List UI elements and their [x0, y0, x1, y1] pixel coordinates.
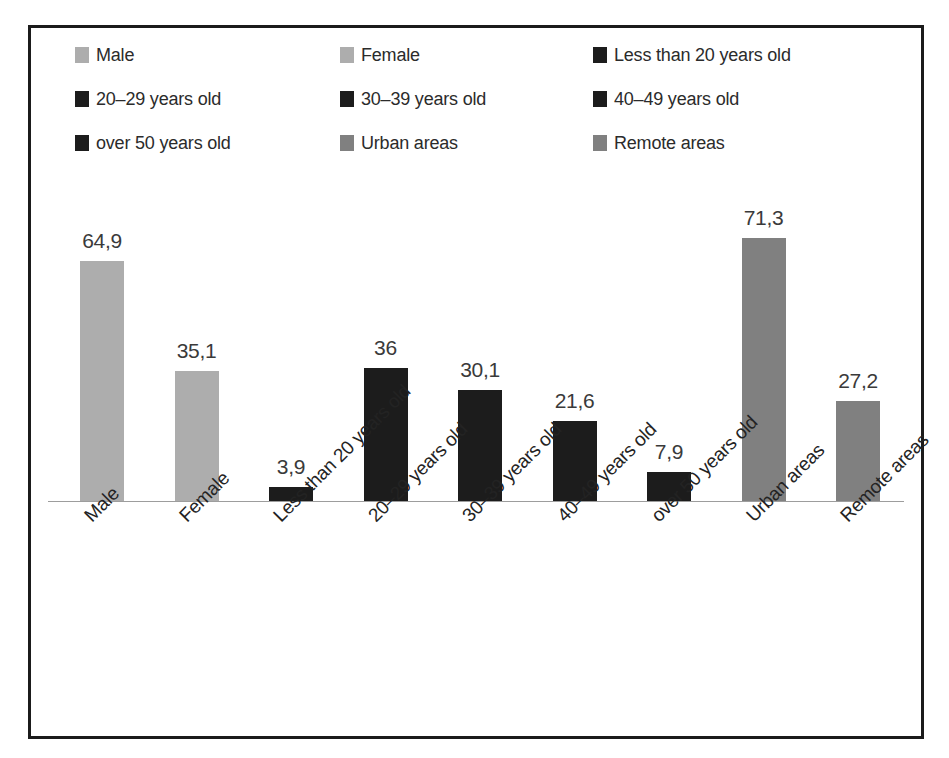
- bar: 64,9: [80, 261, 124, 501]
- bar-value-label: 36: [374, 336, 397, 360]
- chart-figure: MaleFemaleLess than 20 years old20–29 ye…: [0, 0, 949, 758]
- bar-value-label: 30,1: [460, 358, 500, 382]
- bar-value-label: 64,9: [82, 229, 122, 253]
- bar-rect: [742, 238, 786, 501]
- bar-value-label: 3,9: [277, 455, 305, 479]
- bar-value-label: 35,1: [177, 339, 217, 363]
- bar: 71,3: [742, 238, 786, 501]
- bar-value-label: 7,9: [655, 440, 683, 464]
- bar-value-label: 27,2: [838, 369, 878, 393]
- bar-rect: [80, 261, 124, 501]
- plot-area: 64,935,13,93630,121,67,971,327,2 MaleFem…: [28, 25, 924, 739]
- bar-value-label: 71,3: [744, 206, 784, 230]
- bar-value-label: 21,6: [555, 389, 595, 413]
